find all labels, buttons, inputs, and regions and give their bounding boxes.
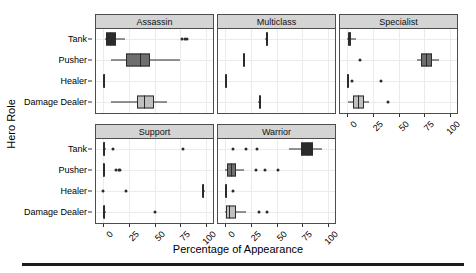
median-line	[347, 74, 348, 87]
outlier-point	[254, 169, 257, 172]
boxplot-figure: Hero Role TankPusherHealerDamage DealerT…	[0, 0, 476, 273]
y-axis-tick-labels: TankPusherHealerDamage Dealer	[20, 29, 92, 114]
panel-plot-multiclass	[217, 29, 336, 114]
x-axis-ticks: 0255075100	[339, 114, 458, 138]
y-tick-mark	[88, 80, 92, 81]
outlier-point	[153, 210, 156, 213]
outlier-point	[119, 169, 122, 172]
x-tick-label-0: 0	[227, 229, 238, 240]
x-tick-label-50: 50	[274, 229, 288, 243]
x-tick-label-75: 75	[300, 229, 314, 243]
outlier-point	[232, 148, 235, 151]
y-tick-label-pusher: Pusher	[58, 165, 87, 175]
gridline-vertical	[251, 139, 252, 223]
median-line	[140, 54, 141, 67]
y-tick-label-tank: Tank	[68, 34, 87, 44]
x-tick-mark	[180, 224, 181, 227]
gridline-horizontal	[96, 191, 213, 192]
gridline-vertical	[450, 29, 451, 113]
outlier-point	[266, 210, 269, 213]
panel-support: Support	[95, 124, 214, 224]
median-line	[307, 143, 308, 156]
gridline-horizontal	[218, 39, 335, 40]
gridline-vertical	[277, 139, 278, 223]
gridline-vertical	[251, 29, 252, 113]
gridline-vertical	[424, 29, 425, 113]
x-tick-mark	[225, 224, 226, 227]
x-tick-mark	[424, 114, 425, 117]
y-tick-label-healer: Healer	[60, 76, 87, 86]
outlier-point	[232, 189, 235, 192]
panel-specialist: Specialist	[339, 14, 458, 114]
gridline-horizontal	[218, 191, 335, 192]
outlier-point	[258, 210, 261, 213]
gridline-vertical	[103, 29, 104, 113]
gridline-vertical	[373, 29, 374, 113]
median-line	[144, 95, 145, 108]
outlier-point	[124, 189, 127, 192]
x-tick-mark	[399, 114, 400, 117]
x-tick-label-0: 0	[349, 119, 360, 130]
x-tick-mark	[206, 224, 207, 227]
box-damage-dealer	[226, 205, 236, 218]
outlier-point	[359, 59, 362, 62]
x-tick-label-25: 25	[127, 229, 141, 243]
gridline-horizontal	[96, 170, 213, 171]
x-tick-mark	[328, 224, 329, 227]
x-tick-mark	[251, 224, 252, 227]
outlier-point	[387, 100, 390, 103]
gridline-vertical	[399, 29, 400, 113]
x-tick-mark	[373, 114, 374, 117]
x-tick-label-50: 50	[152, 229, 166, 243]
median-line	[229, 205, 230, 218]
outlier-point	[255, 148, 258, 151]
median-line	[104, 205, 105, 218]
y-tick-mark	[88, 149, 92, 150]
x-tick-label-100: 100	[444, 119, 462, 137]
outlier-point	[182, 148, 185, 151]
x-tick-label-0: 0	[105, 229, 116, 240]
panel-title-assassin: Assassin	[95, 14, 214, 29]
gridline-vertical	[225, 29, 226, 113]
outlier-point	[244, 148, 247, 151]
panel-title-support: Support	[95, 124, 214, 139]
gridline-vertical	[302, 29, 303, 113]
y-tick-mark	[88, 211, 92, 212]
outlier-point	[112, 148, 115, 151]
y-tick-mark	[88, 170, 92, 171]
median-line	[103, 164, 104, 177]
median-line	[231, 164, 232, 177]
panel-plot-specialist	[339, 29, 458, 114]
x-tick-mark	[277, 224, 278, 227]
x-tick-mark	[129, 224, 130, 227]
median-line	[104, 143, 105, 156]
median-line	[244, 54, 245, 67]
panel-plot-assassin	[95, 29, 214, 114]
gridline-vertical	[277, 29, 278, 113]
x-tick-mark	[103, 224, 104, 227]
median-line	[203, 184, 204, 197]
gridline-vertical	[206, 29, 207, 113]
outlier-point	[380, 79, 383, 82]
box-tank	[106, 33, 116, 46]
outlier-point	[351, 79, 354, 82]
x-tick-mark	[347, 114, 348, 117]
panel-title-specialist: Specialist	[339, 14, 458, 29]
gridline-horizontal	[218, 81, 335, 82]
median-line	[358, 95, 359, 108]
median-line	[110, 33, 111, 46]
y-tick-label-healer: Healer	[60, 186, 87, 196]
x-tick-mark	[155, 224, 156, 227]
y-tick-label-tank: Tank	[68, 144, 87, 154]
median-line	[349, 33, 350, 46]
y-tick-label-damage-dealer: Damage Dealer	[24, 97, 87, 107]
outlier-point	[264, 169, 267, 172]
y-axis-tick-labels: TankPusherHealerDamage Dealer	[20, 139, 92, 224]
median-line	[266, 33, 267, 46]
gridline-horizontal	[96, 81, 213, 82]
footer-divider	[22, 263, 464, 266]
median-line	[104, 74, 105, 87]
gridline-horizontal	[340, 81, 457, 82]
median-line	[426, 54, 427, 67]
median-line	[226, 74, 227, 87]
